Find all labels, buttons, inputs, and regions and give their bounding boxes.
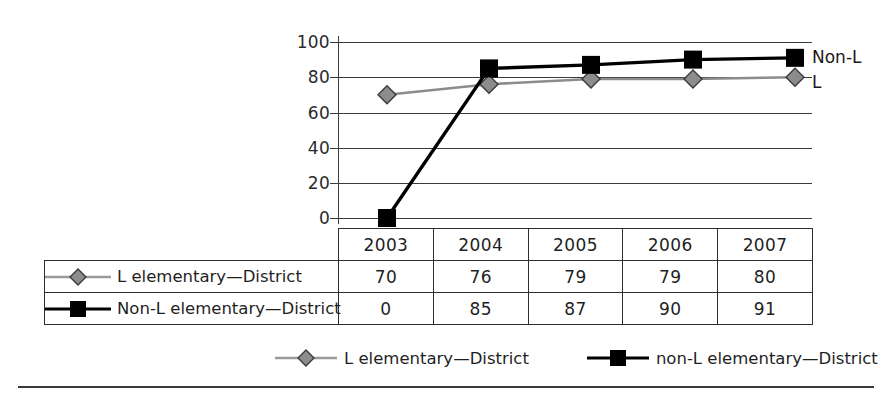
square-marker-legend-icon	[587, 348, 649, 368]
y-tick-label-60: 60	[286, 103, 330, 123]
data-table: 2003 2004 2005 2006 2007 L elementary—Di…	[44, 228, 813, 325]
diamond-marker-legend-icon	[275, 348, 337, 368]
square-marker-swatch-icon	[45, 299, 111, 319]
gridline-60	[338, 113, 812, 114]
gridline-100	[338, 42, 812, 43]
page-divider-rule	[18, 386, 874, 388]
table-cell-l-2006: 79	[623, 261, 718, 293]
y-tick-label-20: 20	[286, 173, 330, 193]
table-row: Non-L elementary—District 0 85 87 90 91	[45, 293, 813, 325]
legend-entry-non-l-elementary: non-L elementary—District	[587, 348, 878, 368]
table-cell-l-2007: 80	[718, 261, 813, 293]
gridline-40	[338, 148, 812, 149]
table-row-label-text: L elementary—District	[117, 267, 302, 286]
table-col-header-2006: 2006	[623, 229, 718, 261]
chart-figure: 100 80 60 40 20 0 Non-L L 20	[0, 0, 892, 400]
table-col-header-2005: 2005	[528, 229, 623, 261]
table-cell-nonl-2004: 85	[433, 293, 528, 325]
gridline-0	[338, 218, 812, 219]
chart-legend: L elementary—District non-L elementary—D…	[275, 348, 835, 368]
gridline-20	[338, 183, 812, 184]
table-cell-nonl-2003: 0	[339, 293, 434, 325]
y-tick-label-40: 40	[286, 138, 330, 158]
table-cell-l-2005: 79	[528, 261, 623, 293]
table-row-label-non-l-elementary: Non-L elementary—District	[45, 293, 339, 325]
series-end-label-l: L	[812, 72, 821, 92]
table-cell-nonl-2006: 90	[623, 293, 718, 325]
plot-area	[338, 42, 812, 218]
y-tick-label-100: 100	[286, 32, 330, 52]
table-row-label-l-elementary: L elementary—District	[45, 261, 339, 293]
table-row: L elementary—District 70 76 79 79 80	[45, 261, 813, 293]
legend-entry-l-elementary: L elementary—District	[275, 348, 529, 368]
table-col-header-2003: 2003	[339, 229, 434, 261]
table-cell-l-2003: 70	[339, 261, 434, 293]
table-cell-l-2004: 76	[433, 261, 528, 293]
legend-label: non-L elementary—District	[656, 349, 878, 368]
y-tick-label-0: 0	[286, 208, 330, 228]
series-end-label-non-l: Non-L	[812, 47, 862, 67]
table-col-header-2004: 2004	[433, 229, 528, 261]
table-col-header-2007: 2007	[718, 229, 813, 261]
table-row-label-text: Non-L elementary—District	[117, 299, 341, 318]
diamond-marker-swatch-icon	[45, 267, 111, 287]
table-cell-nonl-2005: 87	[528, 293, 623, 325]
table-cell-nonl-2007: 91	[718, 293, 813, 325]
gridline-80	[338, 77, 812, 78]
table-header-row: 2003 2004 2005 2006 2007	[45, 229, 813, 261]
y-tick-label-80: 80	[286, 67, 330, 87]
table-corner-cell	[45, 229, 339, 261]
legend-label: L elementary—District	[344, 349, 529, 368]
